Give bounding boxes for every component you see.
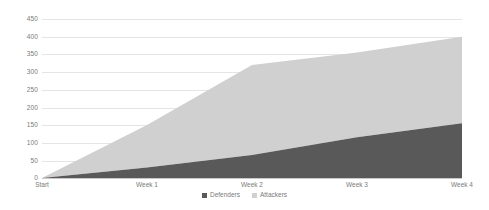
y-tick-label: 150 [4,122,38,129]
y-tick-label: 350 [4,51,38,58]
x-tick-label: Week 4 [451,181,473,189]
legend-swatch-icon [202,193,207,198]
y-tick-label: 50 [4,158,38,165]
plot-area [42,19,462,178]
y-tick-label: 400 [4,34,38,41]
y-tick-label: 450 [4,16,38,23]
chart-legend: Defenders Attackers [0,192,489,199]
legend-item-attackers[interactable]: Attackers [252,192,287,199]
y-tick-label: 250 [4,87,38,94]
legend-label: Defenders [210,192,240,199]
y-tick-label: 100 [4,140,38,147]
y-axis: 450 400 350 300 250 200 150 100 50 0 [0,0,38,210]
legend-label: Attackers [260,192,287,199]
x-tick-label: Week 1 [136,181,158,189]
legend-swatch-icon [252,193,257,198]
series-layer [42,19,462,178]
x-tick-label: Start [35,181,49,189]
area-chart: 450 400 350 300 250 200 150 100 50 0 Sta… [0,0,489,210]
y-tick-label: 300 [4,69,38,76]
x-axis-line [42,178,462,179]
y-tick-label: 200 [4,105,38,112]
x-tick-label: Week 2 [241,181,263,189]
legend-item-defenders[interactable]: Defenders [202,192,240,199]
x-tick-label: Week 3 [346,181,368,189]
